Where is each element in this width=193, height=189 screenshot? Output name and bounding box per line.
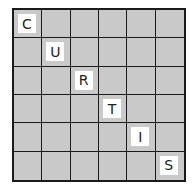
grid-cell-r2-c2[interactable]: R — [71, 67, 99, 95]
grid-cell-r0-c5[interactable] — [156, 10, 184, 38]
letter-grid: CURTIS — [12, 8, 186, 182]
grid-cell-r2-c3[interactable] — [99, 67, 127, 95]
grid-cell-r3-c4[interactable] — [127, 95, 155, 123]
letter-tile: U — [46, 42, 64, 61]
grid-cell-r0-c2[interactable] — [71, 10, 99, 38]
grid-cell-r5-c2[interactable] — [71, 152, 99, 180]
grid-cell-r3-c1[interactable] — [42, 95, 70, 123]
grid-cell-r4-c3[interactable] — [99, 123, 127, 151]
grid-cell-r2-c5[interactable] — [156, 67, 184, 95]
letter-tile: T — [103, 99, 121, 118]
grid-cell-r1-c5[interactable] — [156, 38, 184, 66]
grid-cell-r0-c4[interactable] — [127, 10, 155, 38]
grid-cell-r5-c5[interactable]: S — [156, 152, 184, 180]
grid-cell-r4-c1[interactable] — [42, 123, 70, 151]
grid-cell-r5-c3[interactable] — [99, 152, 127, 180]
grid-cell-r4-c5[interactable] — [156, 123, 184, 151]
grid-cell-r2-c4[interactable] — [127, 67, 155, 95]
grid-cell-r1-c2[interactable] — [71, 38, 99, 66]
grid-cell-r1-c1[interactable]: U — [42, 38, 70, 66]
letter-tile: I — [131, 127, 149, 146]
grid-cell-r5-c0[interactable] — [14, 152, 42, 180]
grid-cell-r4-c4[interactable]: I — [127, 123, 155, 151]
grid-cell-r5-c1[interactable] — [42, 152, 70, 180]
letter-tile: S — [160, 156, 178, 175]
grid-cell-r4-c2[interactable] — [71, 123, 99, 151]
grid-cell-r3-c2[interactable] — [71, 95, 99, 123]
grid-cell-r1-c0[interactable] — [14, 38, 42, 66]
grid-cell-r3-c0[interactable] — [14, 95, 42, 123]
grid-cell-r2-c1[interactable] — [42, 67, 70, 95]
grid-cell-r0-c0[interactable]: C — [14, 10, 42, 38]
letter-tile: C — [18, 14, 36, 33]
grid-cell-r4-c0[interactable] — [14, 123, 42, 151]
letter-tile: R — [75, 71, 93, 90]
grid-cell-r5-c4[interactable] — [127, 152, 155, 180]
grid-cell-r1-c4[interactable] — [127, 38, 155, 66]
grid-cell-r0-c3[interactable] — [99, 10, 127, 38]
grid-cell-r3-c5[interactable] — [156, 95, 184, 123]
grid-cell-r3-c3[interactable]: T — [99, 95, 127, 123]
grid-cell-r0-c1[interactable] — [42, 10, 70, 38]
grid-cell-r1-c3[interactable] — [99, 38, 127, 66]
grid-cell-r2-c0[interactable] — [14, 67, 42, 95]
